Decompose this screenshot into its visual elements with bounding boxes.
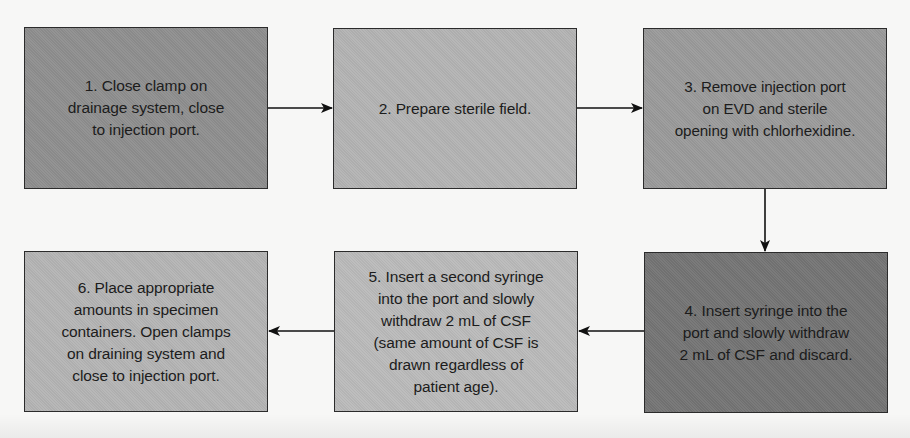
page-bleed-through	[0, 414, 910, 438]
step-label-4: 4. Insert syringe into the port and slow…	[678, 300, 855, 366]
step-box-4: 4. Insert syringe into the port and slow…	[644, 252, 888, 413]
step-box-6: 6. Place appropriate amounts in specimen…	[24, 251, 268, 412]
step-label-1: 1. Close clamp on drainage system, close…	[64, 75, 228, 141]
step-label-3: 3. Remove injection port on EVD and ster…	[674, 76, 857, 142]
step-box-3: 3. Remove injection port on EVD and ster…	[643, 28, 887, 189]
flowchart-canvas: 1. Close clamp on drainage system, close…	[0, 0, 910, 438]
step-box-1: 1. Close clamp on drainage system, close…	[24, 27, 268, 189]
step-label-6: 6. Place appropriate amounts in specimen…	[57, 277, 234, 387]
step-box-5: 5. Insert a second syringe into the port…	[334, 251, 578, 412]
step-label-5: 5. Insert a second syringe into the port…	[365, 266, 548, 398]
step-box-2: 2. Prepare sterile field.	[333, 28, 577, 189]
step-label-2: 2. Prepare sterile field.	[375, 98, 536, 120]
